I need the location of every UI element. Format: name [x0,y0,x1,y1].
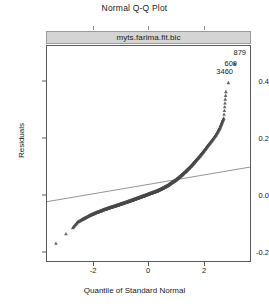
xaxis-top-tick-1 [148,26,149,30]
qq-plot-figure: Normal Q-Q Plot myts.farima.fit.bic Resi… [0,0,269,304]
y-axis-label: Residuals [17,101,26,181]
xaxis-top-tick-0 [93,26,94,30]
x-axis-label: Quantile of Standard Normal [0,286,269,295]
scatter-canvas [47,46,250,261]
xaxis-top-tick-2 [204,26,205,30]
strip-label: myts.farima.fit.bic [47,32,250,43]
point-label-879: 879 [233,48,246,57]
plot-panel [46,45,251,262]
point-label-3460: 3460 [216,67,233,76]
page-title: Normal Q-Q Plot [0,3,269,13]
x-tick-label-1: 0 [136,266,160,275]
x-tick-label-2: 2 [192,266,216,275]
x-tick-label-0: -2 [81,266,105,275]
strip-header: myts.farima.fit.bic [46,31,251,44]
